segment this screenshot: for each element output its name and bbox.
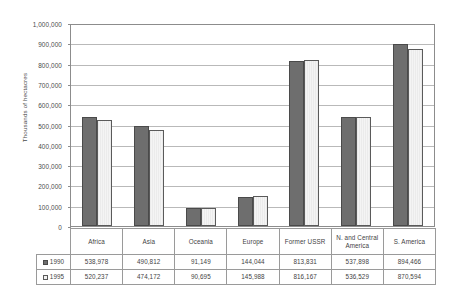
bar-1990-s-america	[393, 44, 408, 226]
bar-group	[175, 25, 227, 226]
table-category-header: Former USSR	[279, 229, 331, 255]
bar-1995-africa	[97, 120, 112, 226]
bar-1995-n-and-central-america	[356, 117, 371, 226]
table-value-cell: 894,466	[383, 255, 435, 270]
y-axis-tick-label: 500,000	[38, 122, 62, 129]
bar-group	[227, 25, 279, 226]
legend-swatch-1995-icon	[43, 275, 48, 280]
bar-1990-asia	[134, 126, 149, 226]
table-value-cell: 536,529	[331, 270, 383, 285]
table-value-cell: 537,898	[331, 255, 383, 270]
y-axis-tick-label: 900,000	[38, 41, 62, 48]
y-axis-tick-label: 700,000	[38, 81, 62, 88]
table-value-cell: 870,594	[383, 270, 435, 285]
table-category-header: S. America	[383, 229, 435, 255]
bar-group	[278, 25, 330, 226]
y-axis-tick-label: 600,000	[38, 102, 62, 109]
y-axis-tick-label: 1,000,000	[33, 21, 62, 28]
table-value-cell: 144,044	[227, 255, 279, 270]
legend-item-1995: 1995	[37, 270, 71, 285]
legend-label-1995: 1995	[50, 273, 64, 280]
y-axis-tick-labels: 1,000,000900,000800,000700,000600,000500…	[0, 24, 66, 227]
table-value-cell: 520,237	[71, 270, 123, 285]
bar-1990-africa	[82, 117, 97, 226]
table-value-cell: 91,149	[175, 255, 227, 270]
table-category-header: Oceania	[175, 229, 227, 255]
table-value-cell: 538,978	[71, 255, 123, 270]
legend-swatch-1990-icon	[43, 260, 48, 265]
table-category-header: Africa	[71, 229, 123, 255]
table-row: 1990 538,978490,81291,149144,044813,8315…	[37, 255, 436, 270]
table-value-cell: 145,988	[227, 270, 279, 285]
bar-group	[71, 25, 123, 226]
table-value-cell: 90,695	[175, 270, 227, 285]
table-value-cell: 813,831	[279, 255, 331, 270]
bar-1990-former-ussr	[289, 61, 304, 226]
bar-1995-oceania	[201, 208, 216, 226]
y-axis-tick-label: 400,000	[38, 142, 62, 149]
y-axis-tick-label: 800,000	[38, 61, 62, 68]
bar-1995-s-america	[408, 49, 423, 226]
table-value-cell: 490,812	[123, 255, 175, 270]
bar-1990-oceania	[186, 208, 201, 227]
table-corner-cell	[37, 229, 71, 255]
bar-group	[123, 25, 175, 226]
bar-group	[382, 25, 434, 226]
table-value-cell: 816,167	[279, 270, 331, 285]
bars-layer	[71, 25, 434, 226]
table-header-row: AfricaAsiaOceaniaEuropeFormer USSRN. and…	[37, 229, 436, 255]
bar-1990-europe	[238, 197, 253, 226]
legend-label-1990: 1990	[50, 258, 64, 265]
table-row: 1995 520,237474,17290,695145,988816,1675…	[37, 270, 436, 285]
bar-chart: Thousands of hectacres 1,000,000900,0008…	[0, 0, 454, 295]
table-category-header: Europe	[227, 229, 279, 255]
bar-1990-n-and-central-america	[341, 117, 356, 226]
bar-1995-europe	[253, 196, 268, 226]
table-category-header: N. and Central America	[331, 229, 383, 255]
table-value-cell: 474,172	[123, 270, 175, 285]
bar-1995-former-ussr	[304, 60, 319, 226]
plot-area	[70, 24, 435, 227]
legend-item-1990: 1990	[37, 255, 71, 270]
y-axis-tick-label: 200,000	[38, 183, 62, 190]
y-axis-tick-label: 300,000	[38, 163, 62, 170]
table-category-header: Asia	[123, 229, 175, 255]
data-table: AfricaAsiaOceaniaEuropeFormer USSRN. and…	[36, 228, 436, 285]
bar-group	[330, 25, 382, 226]
y-axis-tick-label: 100,000	[38, 203, 62, 210]
bar-1995-asia	[149, 130, 164, 226]
